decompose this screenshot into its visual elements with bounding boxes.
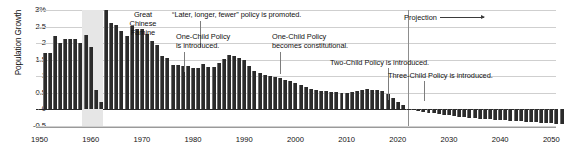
bar-1964 xyxy=(109,23,113,110)
bar-2014 xyxy=(365,89,369,109)
x-tick-2040: 2040 xyxy=(492,135,509,144)
bar-2006 xyxy=(324,91,328,109)
bar-2046 xyxy=(529,109,533,122)
bar-1958 xyxy=(78,43,82,109)
x-tick-1970: 1970 xyxy=(133,135,150,144)
projection-label: Projection xyxy=(404,13,437,22)
bar-1989 xyxy=(237,58,241,109)
bar-2031 xyxy=(452,109,456,116)
bar-2033 xyxy=(462,109,466,117)
annotation-two-child-policy: Two-Child Policy is introduced. xyxy=(330,58,429,67)
bar-1984 xyxy=(212,67,216,109)
x-tick-2030: 2030 xyxy=(441,135,458,144)
x-tick-2000: 2000 xyxy=(287,135,304,144)
bar-series xyxy=(36,10,556,126)
bar-1995 xyxy=(268,76,272,109)
x-tick-1980: 1980 xyxy=(185,135,202,144)
bar-2013 xyxy=(360,90,364,109)
bar-1952 xyxy=(48,53,52,109)
bar-2016 xyxy=(375,90,379,110)
leader-one-child-constitutional xyxy=(280,52,281,74)
bar-1953 xyxy=(53,36,57,110)
bar-2007 xyxy=(329,92,333,110)
bar-2047 xyxy=(534,109,538,122)
x-tick-1960: 1960 xyxy=(82,135,99,144)
bar-2038 xyxy=(488,109,492,119)
bar-2029 xyxy=(442,109,446,114)
bar-2001 xyxy=(299,85,303,109)
bar-1950 xyxy=(38,109,42,110)
bar-1976 xyxy=(171,65,175,110)
bar-2012 xyxy=(355,91,359,110)
bar-2045 xyxy=(524,109,528,121)
bar-2027 xyxy=(432,109,436,113)
bar-2042 xyxy=(508,109,512,120)
bar-1954 xyxy=(58,43,62,109)
bar-1951 xyxy=(43,53,47,109)
bar-2030 xyxy=(447,109,451,115)
bar-2023 xyxy=(411,109,415,110)
plot-area: Great Chinese Famine “Later, longer, few… xyxy=(36,10,556,126)
bar-2050 xyxy=(549,109,553,123)
bar-1981 xyxy=(196,68,200,110)
bar-2028 xyxy=(437,109,441,114)
bar-1998 xyxy=(283,80,287,110)
bar-1957 xyxy=(73,39,77,110)
bar-2024 xyxy=(416,109,420,111)
bar-1966 xyxy=(119,31,123,110)
annotation-great-chinese-famine: Great Chinese Famine xyxy=(116,10,170,38)
bar-2000 xyxy=(293,83,297,109)
bar-1985 xyxy=(217,63,221,110)
bar-1994 xyxy=(263,75,267,110)
x-tick-1990: 1990 xyxy=(236,135,253,144)
bar-1960 xyxy=(89,47,93,109)
bar-2020 xyxy=(396,102,400,110)
bar-1967 xyxy=(125,36,129,110)
bar-1987 xyxy=(227,55,231,110)
bar-2022 xyxy=(406,109,410,110)
bar-1962 xyxy=(99,102,103,110)
bar-2048 xyxy=(539,109,543,122)
annotation-three-child-policy: Three-Child Policy is introduced. xyxy=(388,71,493,80)
bar-2010 xyxy=(345,93,349,110)
bar-2049 xyxy=(544,109,548,123)
bar-2025 xyxy=(421,109,425,112)
bar-1975 xyxy=(165,58,169,110)
bar-undefined xyxy=(560,109,564,124)
bar-1968 xyxy=(130,26,134,110)
bar-1991 xyxy=(247,66,251,110)
bar-1959 xyxy=(84,35,88,110)
x-axis-rule xyxy=(36,127,556,128)
bar-2011 xyxy=(350,92,354,109)
projection-label-group: Projection xyxy=(404,13,484,22)
bar-2036 xyxy=(478,109,482,118)
bar-1972 xyxy=(150,41,154,109)
bar-2005 xyxy=(319,91,323,110)
bar-1982 xyxy=(201,64,205,109)
bar-2043 xyxy=(514,109,518,121)
bar-2015 xyxy=(370,90,374,109)
bar-1988 xyxy=(232,56,236,109)
bar-1961 xyxy=(94,90,98,109)
x-tick-2010: 2010 xyxy=(338,135,355,144)
bar-2021 xyxy=(401,105,405,109)
bar-1971 xyxy=(145,34,149,110)
bar-2034 xyxy=(467,109,471,117)
x-axis: 1950196019701980199020002010202020302040… xyxy=(36,127,556,150)
bar-1970 xyxy=(140,29,144,109)
bar-undefined xyxy=(554,109,558,123)
leader-three-child-policy xyxy=(424,81,425,101)
bar-1990 xyxy=(242,60,246,109)
bar-1963 xyxy=(104,10,108,109)
bar-1983 xyxy=(206,67,210,110)
bar-2039 xyxy=(493,109,497,119)
bar-1974 xyxy=(160,56,164,110)
bar-2032 xyxy=(457,109,461,116)
bar-1956 xyxy=(68,39,72,110)
bar-1969 xyxy=(135,29,139,110)
annotation-one-child-introduced: One-Child Policy is introduced. xyxy=(176,32,230,50)
bar-2009 xyxy=(340,93,344,110)
bar-2044 xyxy=(519,109,523,121)
bar-2037 xyxy=(483,109,487,119)
bar-2004 xyxy=(314,90,318,110)
